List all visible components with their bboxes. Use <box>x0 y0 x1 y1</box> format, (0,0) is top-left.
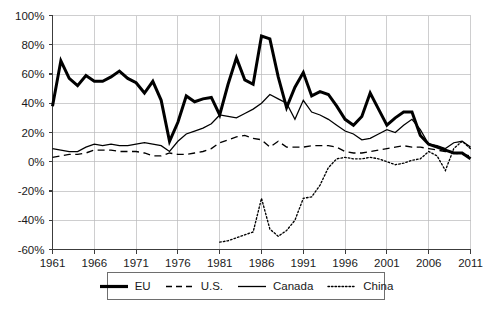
x-tick-label: 1996 <box>332 257 358 269</box>
thick-solid-line-icon <box>99 281 129 292</box>
y-tick-label: 40% <box>21 97 44 109</box>
x-tick-label: 1981 <box>207 257 233 269</box>
dotted-line-icon <box>327 281 357 292</box>
line-chart: 100%80%60%40%20%0%-20%-40%-60% 196119661… <box>0 0 491 313</box>
chart-plot-area: 100%80%60%40%20%0%-20%-40%-60% 196119661… <box>0 0 491 313</box>
legend-item-us: U.S. <box>158 280 230 292</box>
x-tick-label: 1991 <box>291 257 317 269</box>
x-axis-tick-labels: 1961196619711976198119861991199620012006… <box>40 257 483 269</box>
x-tick-label: 2006 <box>416 257 442 269</box>
x-tick-label: 2011 <box>458 257 483 269</box>
y-tick-label: -40% <box>18 214 45 226</box>
x-tick-label: 1976 <box>165 257 191 269</box>
x-tick-label: 2001 <box>374 257 400 269</box>
y-tick-label: 20% <box>21 127 44 139</box>
legend-label-canada: Canada <box>273 280 313 292</box>
x-tick-label: 1971 <box>123 257 149 269</box>
legend-item-eu: EU <box>92 280 158 292</box>
chart-legend: EU U.S. Canada China <box>107 272 385 300</box>
x-tick-label: 1966 <box>82 257 108 269</box>
y-tick-label: 100% <box>15 10 44 22</box>
y-tick-label: -60% <box>18 244 45 256</box>
legend-item-canada: Canada <box>230 280 320 292</box>
legend-label-us: U.S. <box>201 280 223 292</box>
legend-label-eu: EU <box>135 280 151 292</box>
thin-solid-line-icon <box>237 281 267 292</box>
gridlines <box>53 16 471 250</box>
x-tick-label: 1961 <box>40 257 66 269</box>
y-tick-label: 0% <box>28 156 45 168</box>
y-tick-label: -20% <box>18 185 45 197</box>
x-tick-label: 1986 <box>249 257 275 269</box>
y-axis-tick-labels: 100%80%60%40%20%0%-20%-40%-60% <box>15 10 44 256</box>
legend-item-china: China <box>320 280 400 292</box>
y-tick-label: 80% <box>21 39 44 51</box>
y-tick-label: 60% <box>21 68 44 80</box>
dashed-line-icon <box>165 281 195 292</box>
legend-label-china: China <box>363 280 393 292</box>
